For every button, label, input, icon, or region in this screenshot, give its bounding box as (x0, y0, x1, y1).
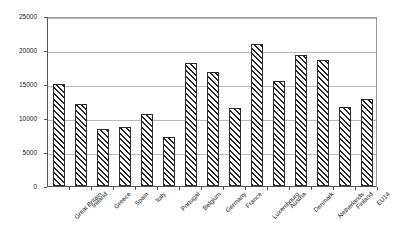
bar (207, 72, 219, 186)
bar (185, 63, 197, 186)
x-tick-label: Belgium (202, 191, 223, 212)
bar (229, 108, 241, 186)
bar (295, 55, 307, 186)
y-tick-label: 5000 (23, 150, 37, 157)
bar (75, 104, 87, 186)
y-axis: 0500010000150002000025000 (0, 0, 44, 244)
x-tick-label: Greece (113, 191, 132, 210)
x-tick-label: Austria (289, 191, 307, 209)
bar (141, 114, 153, 186)
x-tick-mark (377, 187, 378, 190)
bar (317, 60, 329, 186)
x-tick-label: Ireland (91, 191, 109, 209)
x-tick-label: Italy (154, 191, 167, 204)
x-tick-label: Luxembourg (271, 191, 300, 220)
gridline-0 (48, 188, 376, 189)
x-tick-label: Denmark (312, 191, 335, 214)
y-tick-label: 10000 (19, 116, 37, 123)
bar (251, 44, 263, 186)
bar (53, 84, 65, 186)
bar (119, 127, 131, 186)
y-tick-mark (44, 187, 47, 188)
x-tick-label: Portugal (180, 191, 201, 212)
x-tick-label: Spain (134, 191, 150, 207)
x-tick-label: EU14 (376, 191, 392, 207)
bars-layer (48, 18, 376, 186)
bar (361, 99, 373, 186)
bar (273, 81, 285, 186)
x-tick-label: Netherlands (337, 191, 365, 219)
x-tick-label: France (245, 191, 263, 209)
x-tick-label: Finland (355, 191, 374, 210)
x-tick-label: Great Britain (73, 191, 102, 220)
y-tick-label: 15000 (19, 82, 37, 89)
bar-chart: 0500010000150002000025000 Great BritainI… (0, 0, 394, 244)
y-tick-label: 25000 (19, 14, 37, 21)
bar (339, 107, 351, 186)
x-tick-label: Germany (225, 191, 248, 214)
plot-area (47, 17, 377, 187)
y-tick-label: 20000 (19, 48, 37, 55)
bar (163, 137, 175, 186)
bar (97, 129, 109, 186)
y-tick-label: 0 (33, 184, 37, 191)
